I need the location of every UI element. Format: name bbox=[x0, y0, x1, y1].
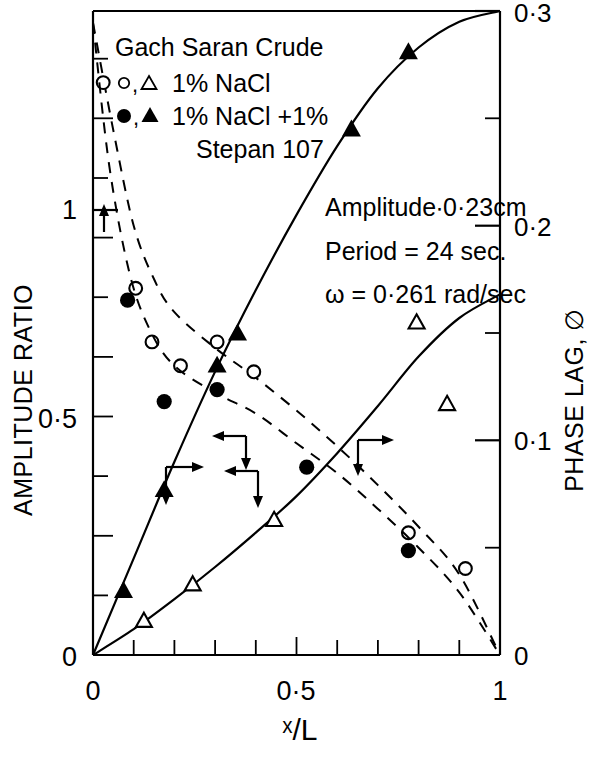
data-point-open-circle bbox=[211, 336, 224, 349]
annotation-amplitude: Amplitude∙0·23cm bbox=[325, 193, 526, 221]
filled-circle-icon bbox=[117, 109, 131, 123]
right-axis-ticks bbox=[475, 11, 500, 655]
annotation-omega: ω = 0·261 rad/sec bbox=[325, 280, 526, 308]
data-point-filled-triangle bbox=[114, 581, 133, 598]
data-point-open-triangle bbox=[439, 396, 455, 410]
legend-label-filled: 1% NaCl +1% bbox=[172, 102, 328, 130]
left-tick-label-0: 0 bbox=[62, 642, 77, 672]
right-tick-label-0-3: 0·3 bbox=[514, 0, 552, 28]
data-point-open-triangle bbox=[266, 512, 282, 526]
legend: Gach Saran Crude , 1% NaCl , 1% NaCl +1%… bbox=[115, 33, 328, 163]
data-point-open-triangle bbox=[136, 613, 152, 627]
left-tick-label-0-5: 0·5 bbox=[38, 404, 77, 434]
legend-entry-open: , 1% NaCl bbox=[119, 69, 271, 97]
x-tick-label-1: 1 bbox=[492, 676, 507, 706]
data-point-filled-circle bbox=[157, 394, 172, 409]
annotation-period: Period = 24 sec. bbox=[325, 237, 506, 265]
arrow-pair-b bbox=[212, 431, 251, 470]
legend-label-filled-cont: Stepan 107 bbox=[196, 135, 324, 163]
data-point-filled-circle bbox=[401, 543, 416, 558]
data-point-filled-triangle bbox=[342, 120, 361, 137]
right-tick-label-0: 0 bbox=[514, 641, 528, 671]
data-point-filled-circle bbox=[120, 293, 135, 308]
data-point-open-circle bbox=[247, 365, 260, 378]
legend-label-open: 1% NaCl bbox=[172, 69, 271, 97]
left-axis-ticks bbox=[93, 59, 118, 655]
arrow-pair-c bbox=[224, 466, 263, 508]
data-point-open-triangle bbox=[185, 576, 201, 590]
arrow-top-left bbox=[99, 204, 109, 232]
data-point-open-circle bbox=[129, 282, 142, 295]
legend-entry-filled: , 1% NaCl +1% Stepan 107 bbox=[117, 102, 328, 163]
legend-comma-2: , bbox=[133, 105, 139, 130]
open-triangle-icon bbox=[142, 76, 157, 89]
data-point-filled-triangle bbox=[208, 356, 227, 373]
x-axis-ticks bbox=[93, 637, 500, 655]
figure-container: 1 0·5 0 0·3 0·2 0·1 0 0 0·5 1 AMPLITUDE … bbox=[0, 0, 602, 761]
data-point-filled-triangle bbox=[228, 324, 247, 341]
x-axis-title: ˣ/L bbox=[283, 713, 318, 746]
arrow-pair-a bbox=[161, 462, 204, 505]
left-tick-label-1: 1 bbox=[62, 195, 77, 225]
x-tick-label-0: 0 bbox=[85, 676, 100, 706]
chart-svg: 1 0·5 0 0·3 0·2 0·1 0 0 0·5 1 AMPLITUDE … bbox=[0, 0, 602, 761]
legend-title: Gach Saran Crude bbox=[115, 33, 323, 61]
arrow-pair-d bbox=[353, 435, 394, 476]
annotation-block: Amplitude∙0·23cm Period = 24 sec. ω = 0·… bbox=[325, 193, 526, 308]
data-point-filled-circle bbox=[210, 382, 225, 397]
right-tick-label-0-1: 0·1 bbox=[514, 426, 552, 456]
data-point-open-triangle bbox=[409, 314, 425, 328]
data-point-open-circle bbox=[459, 562, 472, 575]
open-circle-icon bbox=[119, 78, 129, 88]
left-axis-title: AMPLITUDE RATIO bbox=[9, 284, 37, 516]
right-axis-title: PHASE LAG, ∅ bbox=[560, 308, 588, 492]
filled-triangle-icon bbox=[142, 107, 159, 122]
x-tick-label-0-5: 0·5 bbox=[276, 676, 315, 706]
legend-comma-1: , bbox=[132, 72, 138, 97]
data-point-filled-circle bbox=[299, 460, 314, 475]
